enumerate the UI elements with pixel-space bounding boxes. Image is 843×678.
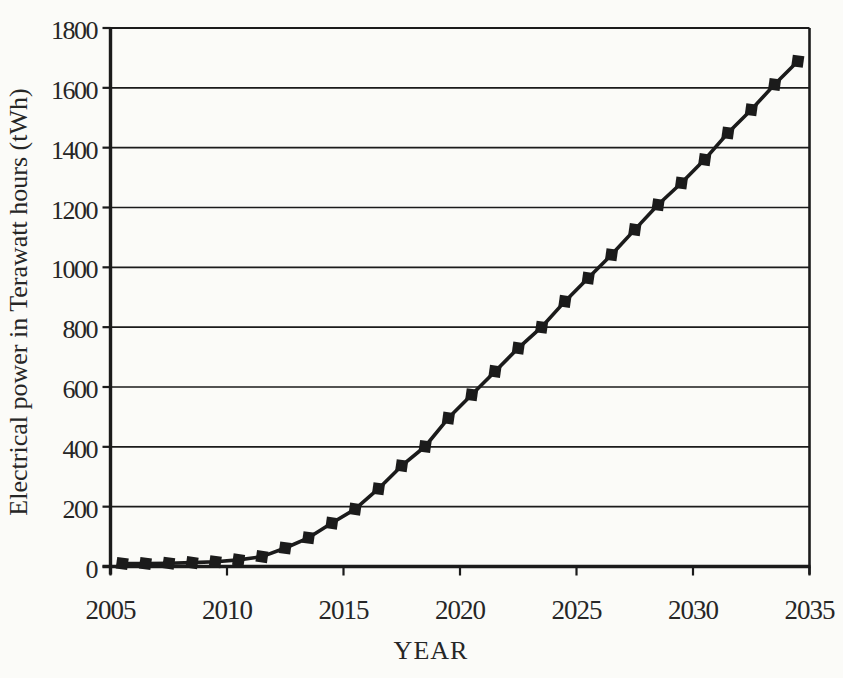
y-tick-label: 1400 xyxy=(51,136,99,165)
x-tick-label: 2025 xyxy=(552,595,603,625)
x-tick-label: 2030 xyxy=(668,595,719,625)
data-point-marker xyxy=(465,388,478,401)
x-tick-label: 2010 xyxy=(202,595,253,625)
y-axis-title: Electrical power in Terawatt hours (tWh) xyxy=(4,88,33,515)
y-tick-label: 800 xyxy=(63,315,99,344)
data-point-marker xyxy=(116,557,129,570)
data-point-marker xyxy=(791,55,804,68)
y-tick-label: 200 xyxy=(63,495,99,524)
x-tick-label: 2020 xyxy=(435,595,486,625)
gridlines-group xyxy=(111,28,810,507)
data-point-marker xyxy=(512,342,525,355)
y-tick-label: 1000 xyxy=(51,255,99,284)
data-point-marker xyxy=(488,365,501,378)
data-point-marker xyxy=(442,412,455,425)
y-tick-label: 1200 xyxy=(51,196,99,225)
data-point-marker xyxy=(558,295,571,308)
data-point-marker xyxy=(768,78,781,91)
data-point-marker xyxy=(395,459,408,472)
tick-labels-group: 0200400600800100012001400160018002005201… xyxy=(51,16,835,625)
data-point-marker xyxy=(186,556,199,569)
data-point-marker xyxy=(302,531,315,544)
data-point-marker xyxy=(349,503,362,516)
x-tick-label: 2015 xyxy=(319,595,370,625)
data-point-marker xyxy=(372,482,385,495)
data-point-marker xyxy=(721,126,734,139)
y-tick-label: 0 xyxy=(86,555,99,584)
ticks-group xyxy=(103,28,810,576)
y-tick-label: 1600 xyxy=(51,76,99,105)
data-point-marker xyxy=(652,198,665,211)
axes-frame-group xyxy=(103,27,811,575)
y-tick-label: 400 xyxy=(63,435,99,464)
series-line xyxy=(122,61,798,563)
data-point-marker xyxy=(628,223,641,236)
data-point-marker xyxy=(255,550,268,563)
data-point-marker xyxy=(279,541,292,554)
x-axis-title: YEAR xyxy=(394,636,469,665)
line-chart-figure: 0200400600800100012001400160018002005201… xyxy=(0,0,843,678)
y-tick-label: 600 xyxy=(63,375,99,404)
data-point-marker xyxy=(162,557,175,570)
data-point-marker xyxy=(232,553,245,566)
data-point-marker xyxy=(745,103,758,116)
data-point-marker xyxy=(698,153,711,166)
data-point-marker xyxy=(419,440,432,453)
plot-area: 0200400600800100012001400160018002005201… xyxy=(0,0,843,678)
x-tick-label: 2035 xyxy=(785,595,836,625)
data-series-group xyxy=(116,55,805,570)
data-point-marker xyxy=(209,555,222,568)
data-point-marker xyxy=(605,248,618,261)
data-point-marker xyxy=(325,517,338,530)
data-point-marker xyxy=(139,557,152,570)
y-tick-label: 1800 xyxy=(51,16,99,45)
data-point-marker xyxy=(582,272,595,285)
x-tick-label: 2005 xyxy=(86,595,137,625)
data-point-marker xyxy=(535,321,548,334)
data-point-marker xyxy=(675,176,688,189)
